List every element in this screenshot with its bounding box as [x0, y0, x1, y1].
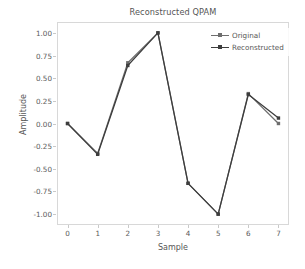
data-point-marker: [156, 31, 159, 34]
data-point-marker: [66, 122, 69, 125]
x-tick-label: 1: [95, 229, 100, 238]
y-tick-label: 0.00: [36, 119, 52, 128]
x-axis-label: Sample: [57, 243, 289, 252]
chart-title: Reconstructed QPAM: [57, 7, 289, 17]
x-tick-label: 2: [126, 229, 131, 238]
y-tick-mark: [53, 191, 56, 192]
x-tick-label: 3: [156, 229, 161, 238]
y-tick-label: 1.00: [36, 28, 52, 37]
x-tick-mark: [68, 225, 69, 228]
data-point-marker: [247, 93, 250, 96]
x-tick-mark: [98, 225, 99, 228]
x-tick-label: 6: [246, 229, 251, 238]
data-point-marker: [216, 212, 219, 215]
y-axis-label: Amplitude: [19, 75, 28, 155]
y-tick-mark: [53, 214, 56, 215]
legend-item-reconstructed: Reconstructed: [211, 42, 289, 53]
y-tick-mark: [53, 56, 56, 57]
y-tick-label: -0.25: [33, 142, 52, 151]
y-tick-label: -0.75: [33, 187, 52, 196]
x-axis-tick-labels: 01234567: [57, 229, 289, 241]
data-point-marker: [186, 182, 189, 185]
y-tick-label: 0.50: [36, 74, 52, 83]
x-tick-mark: [158, 225, 159, 228]
x-tick-label: 0: [65, 229, 70, 238]
y-tick-label: -1.00: [33, 210, 52, 219]
y-tick-mark: [53, 101, 56, 102]
x-tick-label: 7: [276, 229, 281, 238]
data-point-marker: [96, 153, 99, 156]
y-tick-mark: [53, 78, 56, 79]
y-tick-label: -0.50: [33, 164, 52, 173]
legend-marker-original: [211, 31, 229, 40]
legend-marker-reconstructed: [211, 43, 229, 52]
series-reconstructed: [66, 31, 280, 216]
x-tick-label: 4: [186, 229, 191, 238]
chart-legend: Original Reconstructed: [209, 28, 291, 56]
x-tick-mark: [218, 225, 219, 228]
y-tick-mark: [53, 33, 56, 34]
y-tick-label: 0.75: [36, 51, 52, 60]
x-tick-label: 5: [216, 229, 221, 238]
data-point-marker: [126, 64, 129, 67]
x-tick-mark: [128, 225, 129, 228]
y-tick-label: 0.25: [36, 96, 52, 105]
series-line: [68, 33, 279, 214]
series-original: [66, 31, 280, 216]
chart-figure: Reconstructed QPAM 1.000.750.500.250.00-…: [0, 0, 305, 269]
legend-item-original: Original: [211, 30, 289, 41]
x-tick-mark: [248, 225, 249, 228]
y-tick-mark: [53, 146, 56, 147]
legend-label-reconstructed: Reconstructed: [232, 43, 284, 52]
x-tick-mark: [278, 225, 279, 228]
legend-dot: [218, 45, 222, 49]
data-point-marker: [277, 122, 280, 125]
legend-dot: [218, 33, 222, 37]
data-point-marker: [277, 116, 280, 119]
y-tick-mark: [53, 124, 56, 125]
x-tick-mark: [188, 225, 189, 228]
y-tick-mark: [53, 169, 56, 170]
series-line: [68, 33, 279, 214]
legend-label-original: Original: [232, 31, 260, 40]
